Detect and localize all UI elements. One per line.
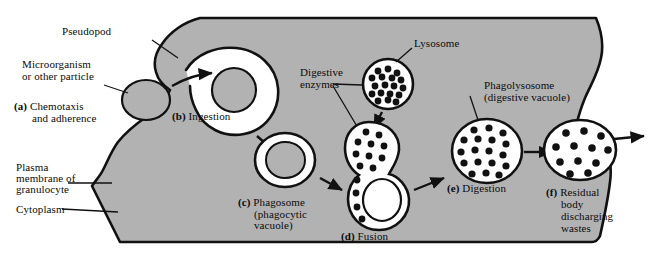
- stage-label-f: (f) Residual: [546, 186, 599, 198]
- stage-label-d: (d) Fusion: [341, 230, 388, 242]
- stage-f-line2: body: [561, 198, 583, 210]
- diagram-canvas: [0, 0, 658, 269]
- stage-f-line3: discharging: [561, 210, 613, 222]
- stage-b-tag: (b): [172, 110, 186, 122]
- stage-a-tag: (a): [14, 100, 27, 112]
- stage-e-tag: (e): [447, 182, 460, 194]
- label-phagolysosome-line1: Phagolysosome: [484, 79, 554, 91]
- label-cytoplasm: Cytoplasm: [16, 203, 65, 215]
- stage-d-line1: Fusion: [355, 230, 388, 242]
- stage-d-tag: (d): [341, 230, 355, 242]
- label-microorganism-line2: or other particle: [22, 70, 94, 82]
- label-digestive-enzymes-line2: enzymes: [300, 78, 339, 90]
- stage-label-b: (b) Ingestion: [172, 110, 230, 122]
- stage-c-line3: vacuole): [254, 219, 293, 231]
- label-digestive-enzymes-line1: Digestive: [300, 66, 343, 78]
- fusion-inner-particle: [363, 179, 401, 221]
- stage-f-line4: wastes: [561, 222, 591, 234]
- phagosome-contents: [266, 142, 305, 178]
- stage-e-line1: Digestion: [460, 182, 507, 194]
- arrow-waste-discharge: [614, 136, 644, 139]
- stage-label-c: (c) Phagosome: [238, 196, 305, 208]
- leader-microorganism: [104, 85, 128, 93]
- stage-b-line1: Ingestion: [186, 110, 231, 122]
- label-phagolysosome-line2: (digestive vacuole): [484, 91, 570, 103]
- stage-c-line1: Phagosome: [251, 196, 305, 208]
- label-pseudopod: Pseudopod: [62, 25, 111, 37]
- label-microorganism-line1: Microorganism: [22, 58, 91, 70]
- ingested-particle-b: [212, 68, 256, 112]
- stage-f-line1: Residual: [557, 186, 599, 198]
- stage-a-line2: and adherence: [32, 112, 97, 124]
- stage-c-tag: (c): [238, 196, 251, 208]
- stage-label-a: (a) Chemotaxis: [14, 100, 84, 112]
- label-plasma-membrane-line3: granulocyte: [16, 183, 69, 195]
- stage-a-line1: Chemotaxis: [27, 100, 83, 112]
- stage-label-e: (e) Digestion: [447, 182, 506, 194]
- stage-f-tag: (f): [546, 186, 557, 198]
- phagocytosis-diagram: Pseudopod Microorganism or other particl…: [0, 0, 658, 269]
- microorganism-particle: [122, 80, 170, 120]
- label-lysosome: Lysosome: [414, 37, 459, 49]
